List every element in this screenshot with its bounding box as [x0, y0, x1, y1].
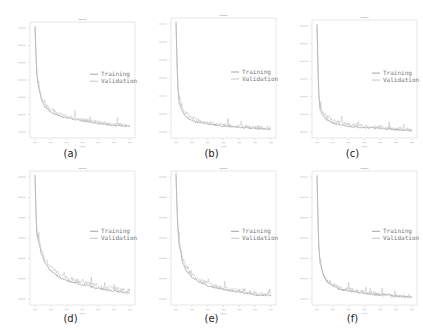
- y-tick-label: [159, 197, 167, 198]
- line-chart: TrainingValidation: [141, 163, 282, 315]
- plot-title: [361, 17, 369, 18]
- line-chart: TrainingValidation: [0, 163, 141, 315]
- x-tick-label: [33, 142, 37, 143]
- y-tick-label: [159, 77, 167, 78]
- x-tick-label: [363, 309, 367, 310]
- y-tick-label: [18, 62, 26, 63]
- panel-caption: (d): [0, 313, 141, 324]
- x-tick-label: [315, 309, 319, 310]
- y-tick-label: [159, 23, 167, 24]
- y-tick-label: [18, 217, 26, 218]
- y-tick-label: [159, 176, 167, 177]
- x-tick-label: [65, 142, 69, 143]
- x-tick-label: [112, 142, 116, 143]
- x-tick-label: [174, 142, 178, 143]
- y-tick-label: [18, 79, 26, 80]
- legend-label: Validation: [101, 234, 138, 241]
- x-tick-label: [315, 142, 319, 143]
- y-tick-label: [18, 197, 26, 198]
- x-tick-label: [253, 309, 257, 310]
- legend-label: Validation: [101, 77, 138, 84]
- legend-label: Validation: [242, 234, 279, 241]
- chart-panel-e: TrainingValidation(e): [141, 163, 282, 328]
- y-tick-label: [18, 114, 26, 115]
- legend-label: Validation: [383, 234, 420, 241]
- y-tick-label: [300, 61, 308, 62]
- line-chart: TrainingValidation: [282, 163, 423, 315]
- x-tick-label: [81, 309, 85, 310]
- y-tick-label: [159, 237, 167, 238]
- chart-panel-a: TrainingValidation(a): [0, 0, 141, 165]
- x-tick-label: [269, 309, 273, 310]
- y-tick-label: [18, 45, 26, 46]
- y-tick-label: [18, 131, 26, 132]
- y-tick-label: [159, 41, 167, 42]
- x-tick-label: [237, 142, 241, 143]
- line-chart: TrainingValidation: [0, 0, 141, 152]
- plot-title: [79, 168, 87, 169]
- x-tick-label: [112, 309, 116, 310]
- x-tick-label: [96, 142, 100, 143]
- x-tick-label: [331, 142, 335, 143]
- line-chart: TrainingValidation: [141, 0, 282, 152]
- y-tick-label: [300, 278, 308, 279]
- y-tick-label: [159, 59, 167, 60]
- y-tick-label: [159, 217, 167, 218]
- x-tick-label: [347, 142, 351, 143]
- y-tick-label: [18, 298, 26, 299]
- y-tick-label: [159, 298, 167, 299]
- y-tick-label: [300, 25, 308, 26]
- y-tick-label: [18, 176, 26, 177]
- x-tick-label: [206, 142, 210, 143]
- x-tick-label: [269, 142, 273, 143]
- x-tick-label: [378, 309, 382, 310]
- y-tick-label: [300, 43, 308, 44]
- x-tick-label: [81, 142, 85, 143]
- y-tick-label: [159, 95, 167, 96]
- x-tick-label: [206, 309, 210, 310]
- x-tick-label: [128, 142, 132, 143]
- y-tick-label: [300, 96, 308, 97]
- x-tick-label: [410, 309, 414, 310]
- y-tick-label: [300, 197, 308, 198]
- legend-label: Validation: [383, 76, 420, 83]
- plot-title: [220, 15, 228, 16]
- plot-title: [361, 168, 369, 169]
- plot-title: [220, 168, 228, 169]
- x-tick-label: [128, 309, 132, 310]
- y-tick-label: [300, 114, 308, 115]
- x-tick-label: [174, 309, 178, 310]
- y-tick-label: [300, 298, 308, 299]
- y-tick-label: [18, 237, 26, 238]
- line-chart: TrainingValidation: [282, 0, 423, 152]
- panel-caption: (c): [282, 148, 423, 159]
- x-tick-label: [33, 309, 37, 310]
- x-tick-label: [222, 309, 226, 310]
- x-tick-label: [49, 309, 53, 310]
- x-tick-label: [65, 309, 69, 310]
- x-tick-label: [253, 142, 257, 143]
- y-tick-label: [300, 176, 308, 177]
- chart-panel-d: TrainingValidation(d): [0, 163, 141, 328]
- y-tick-label: [159, 278, 167, 279]
- y-tick-label: [18, 258, 26, 259]
- x-tick-label: [410, 142, 414, 143]
- y-tick-label: [159, 113, 167, 114]
- x-tick-label: [378, 142, 382, 143]
- y-tick-label: [18, 278, 26, 279]
- x-tick-label: [222, 142, 226, 143]
- x-tick-label: [190, 142, 194, 143]
- x-tick-label: [394, 309, 398, 310]
- plot-title: [79, 19, 87, 20]
- x-tick-label: [237, 309, 241, 310]
- chart-panel-c: TrainingValidation(c): [282, 0, 423, 165]
- x-tick-label: [331, 309, 335, 310]
- panel-caption: (b): [141, 148, 282, 159]
- y-tick-label: [159, 131, 167, 132]
- panel-caption: (a): [0, 148, 141, 159]
- chart-panel-b: TrainingValidation(b): [141, 0, 282, 165]
- y-tick-label: [300, 237, 308, 238]
- x-tick-label: [49, 142, 53, 143]
- panel-caption: (f): [282, 313, 423, 324]
- y-tick-label: [300, 217, 308, 218]
